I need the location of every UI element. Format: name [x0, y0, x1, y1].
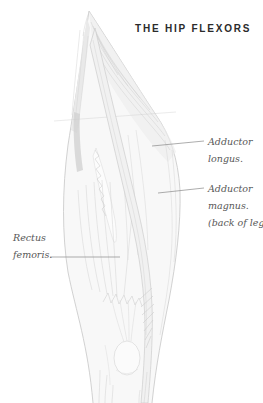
label-line: Rectus [13, 229, 52, 246]
page-title: THE HIP FLEXORS [135, 23, 251, 34]
label-line: femoris. [13, 246, 52, 263]
label-line: magnus. [208, 197, 263, 214]
label-adductor-longus: Adductor longus. [208, 133, 253, 167]
page: THE HIP FLEXORS Adductor longus. Adducto… [0, 0, 263, 403]
label-adductor-magnus: Adductor magnus. (back of leg) [208, 180, 263, 231]
label-line: Adductor [208, 133, 253, 150]
patella [114, 341, 140, 375]
label-line: (back of leg) [208, 214, 263, 231]
label-line: Adductor [208, 180, 263, 197]
label-line: longus. [208, 150, 253, 167]
label-rectus-femoris: Rectus femoris. [13, 229, 52, 263]
